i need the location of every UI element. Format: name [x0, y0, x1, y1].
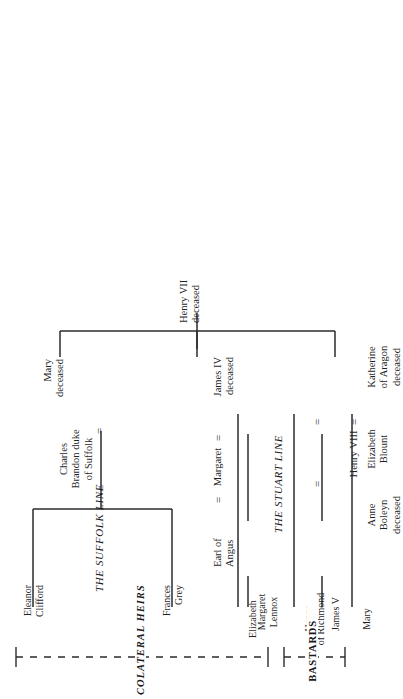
node-elizabeth-blount[interactable]: Elizabeth Blount: [366, 415, 391, 483]
node-henry-vii[interactable]: Henry VII deceased: [178, 235, 203, 323]
node-katherine-of-aragon[interactable]: Katherine of Aragon deceased: [366, 321, 403, 413]
node-james-v-line1: James V: [330, 583, 342, 645]
node-mary-child[interactable]: Mary: [361, 589, 373, 649]
node-earl-of-angus[interactable]: Earl of Angus: [212, 505, 237, 567]
node-henry-vii-name: Henry VII: [178, 235, 190, 323]
node-elizabeth-blount-line1: Elizabeth: [366, 415, 378, 483]
bracket-label-colateral-heirs: COLATERAL HEIRS: [135, 586, 146, 699]
node-anne-boleyn-line1: Anne: [366, 481, 378, 549]
node-charles-brandon-line1: Charles: [58, 409, 70, 509]
label-suffolk-line1: THE SUFFOLK: [93, 514, 105, 592]
marriage-symbol-henry8-boleyn: =: [311, 481, 323, 487]
label-suffolk-line2: LINE: [93, 484, 105, 510]
node-henry-vii-status: deceased: [190, 235, 202, 323]
node-eleanor-clifford-line2: Clifford: [34, 585, 46, 655]
label-stuart-line: THE STUART LINE: [271, 429, 286, 539]
bracket-label-bastards: BASTARDS: [307, 607, 318, 695]
node-james-iv-name: James IV: [212, 357, 224, 431]
label-suffolk-line: THE SUFFOLK LINE: [92, 483, 107, 593]
node-eleanor-clifford-line1: Eleanor: [22, 585, 34, 655]
node-eleanor-clifford[interactable]: Eleanor Clifford: [22, 585, 46, 655]
node-elizabeth-child[interactable]: Elizabeth: [247, 585, 259, 653]
node-elizabeth-blount-line2: Blount: [378, 415, 390, 483]
node-james-iv[interactable]: James IV deceased: [212, 357, 237, 431]
node-frances-grey-line1: Frances: [161, 585, 173, 655]
node-james-v[interactable]: James V: [330, 583, 342, 645]
node-margaret-tudor[interactable]: Margaret: [212, 441, 224, 493]
node-charles-brandon[interactable]: Charles Brandon duke of Suffolk: [58, 409, 95, 509]
node-mary-child-line1: Mary: [361, 589, 373, 649]
node-anne-boleyn-label[interactable]: Anne Boleyn deceased: [366, 481, 403, 549]
node-earl-of-angus-line1: Earl of: [212, 505, 224, 567]
node-margaret-lennox-line2: Lennox: [268, 575, 280, 649]
node-anne-boleyn-line2: Boleyn: [378, 481, 390, 549]
node-margaret-tudor-name: Margaret: [212, 441, 224, 493]
node-henry-viii[interactable]: Henry VIII: [348, 425, 360, 483]
marriage-symbol-margaret-angus: =: [212, 497, 224, 503]
node-frances-grey-line2: Grey: [173, 585, 185, 655]
node-henry-viii-name: Henry VIII: [348, 425, 360, 483]
node-earl-of-angus-line2: Angus: [224, 505, 236, 567]
node-elizabeth-child-line1: Elizabeth: [247, 585, 259, 653]
node-katherine-of-aragon-line2: of Aragon: [378, 321, 390, 413]
node-katherine-of-aragon-line3: deceased: [391, 321, 403, 413]
label-stuart-line2: LINE: [272, 435, 284, 461]
node-james-iv-status: deceased: [224, 357, 236, 431]
node-anne-boleyn-line3: deceased: [391, 481, 403, 549]
marriage-symbol-henry8-blount: =: [311, 419, 323, 425]
node-katherine-of-aragon-line1: Katherine: [366, 321, 378, 413]
node-margaret-lennox[interactable]: Margaret Lennox: [256, 575, 280, 649]
label-stuart-line1: THE STUART: [272, 465, 284, 533]
node-charles-brandon-line2: Brandon duke: [70, 409, 82, 509]
node-mary-tudor-name: Mary: [42, 359, 54, 427]
node-frances-grey[interactable]: Frances Grey: [161, 585, 185, 655]
